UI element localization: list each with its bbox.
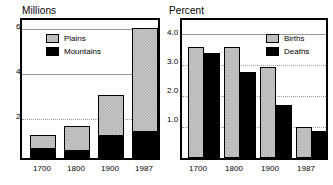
right-ytick-40: 4.0 [167, 29, 178, 37]
births-swatch [266, 34, 279, 43]
deaths-swatch [266, 47, 279, 56]
left-bar-1900-mountains [98, 136, 124, 158]
right-bar-1800-deaths [240, 72, 256, 158]
legend-label-mountains: Mountains [64, 47, 101, 56]
legend-label-births: Births [284, 34, 304, 43]
right-bar-1700-births [188, 47, 204, 158]
right-bar-1900-deaths [276, 105, 292, 158]
left-bar-1700 [30, 135, 56, 158]
right-xtick-1800: 1800 [214, 164, 254, 173]
left-bar-1987 [132, 28, 158, 158]
right-legend: Births Deaths [266, 33, 309, 56]
left-chart-panel: Millions 6 4 2 Plains Mountains [0, 0, 167, 185]
right-bar-1987-deaths [312, 131, 328, 158]
right-bar-1900-births [260, 67, 276, 158]
legend-item-plains: Plains [46, 33, 101, 43]
legend-item-deaths: Deaths [266, 46, 309, 56]
left-chart-title: Millions [22, 5, 56, 16]
left-plot-area: Plains Mountains [20, 18, 160, 160]
plains-swatch [46, 34, 59, 43]
right-ytick-30: 3.0 [167, 58, 178, 66]
right-xtick-1700: 1700 [178, 164, 218, 173]
legend-item-mountains: Mountains [46, 46, 101, 56]
right-chart-panel: Percent 4.0 3.0 2.0 1.0 Births Deaths [167, 0, 333, 185]
right-bar-1800-births [224, 47, 240, 158]
left-bar-1987-mountains [132, 132, 158, 158]
left-bar-1987-plains [132, 28, 158, 132]
right-bar-1700-deaths [204, 53, 220, 158]
right-plot-area: Births Deaths [180, 18, 328, 160]
left-bar-1800-mountains [64, 151, 90, 158]
legend-label-plains: Plains [64, 34, 86, 43]
left-bar-1800-plains [64, 126, 90, 151]
legend-item-births: Births [266, 33, 309, 43]
right-xtick-1900: 1900 [250, 164, 290, 173]
right-ytick-10: 1.0 [167, 116, 178, 124]
left-legend: Plains Mountains [46, 33, 101, 56]
left-bar-1700-plains [30, 135, 56, 149]
figure-root: Millions 6 4 2 Plains Mountains [0, 0, 333, 185]
legend-label-deaths: Deaths [284, 47, 309, 56]
right-ytick-20: 2.0 [167, 87, 178, 95]
left-bar-1900 [98, 95, 124, 158]
right-chart-title: Percent [169, 5, 204, 16]
mountains-swatch [46, 47, 59, 56]
left-xtick-1987: 1987 [124, 164, 164, 173]
right-xtick-1987: 1987 [286, 164, 326, 173]
right-bar-1987-births [296, 127, 312, 158]
left-bar-1900-plains [98, 95, 124, 136]
left-bar-1700-mountains [30, 149, 56, 158]
left-bar-1800 [64, 126, 90, 158]
